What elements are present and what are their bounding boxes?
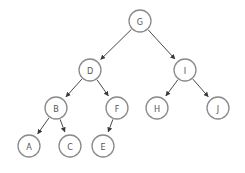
tree-node-e: E xyxy=(92,135,114,157)
tree-node-a: A xyxy=(18,135,40,157)
edge-arrow-d-f xyxy=(97,80,108,96)
tree-diagram: GDIBFHJACE xyxy=(0,0,245,173)
tree-node-h: H xyxy=(146,97,168,119)
tree-node-c: C xyxy=(59,135,81,157)
edge-arrow-i-j xyxy=(193,79,208,97)
node-label: E xyxy=(100,142,105,152)
node-label: G xyxy=(137,17,143,27)
tree-node-d: D xyxy=(79,59,101,81)
edge-arrow-b-c xyxy=(60,119,65,132)
tree-node-i: I xyxy=(174,59,196,81)
tree-node-g: G xyxy=(129,10,151,32)
edge-arrow-i-h xyxy=(166,80,178,96)
edge-arrow-f-e xyxy=(108,119,113,132)
edge-arrow-d-b xyxy=(66,79,82,97)
node-label: D xyxy=(87,66,93,76)
node-label: H xyxy=(154,104,160,114)
node-label: I xyxy=(184,66,186,76)
edge-arrow-g-d xyxy=(101,29,132,59)
node-label: J xyxy=(216,104,219,114)
node-label: A xyxy=(26,142,32,152)
edges-group xyxy=(38,29,209,133)
tree-node-f: F xyxy=(106,97,128,119)
node-label: F xyxy=(115,104,120,114)
node-label: C xyxy=(67,142,73,152)
tree-node-j: J xyxy=(207,97,229,119)
edge-arrow-g-i xyxy=(148,30,175,59)
node-label: B xyxy=(53,104,59,114)
tree-node-b: B xyxy=(45,97,67,119)
edge-arrow-b-a xyxy=(38,118,49,134)
